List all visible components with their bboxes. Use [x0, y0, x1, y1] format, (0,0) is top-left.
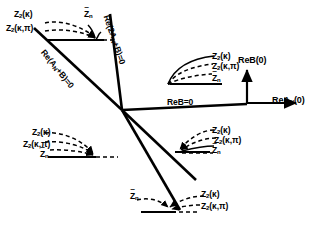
label-z2-kappa-lower-left: Z2(κ): [32, 128, 50, 137]
label-ztilde-n-bottom: ~Zn: [130, 192, 139, 201]
label-z2-kappa-pi-lower-left: Z2(κ,π): [23, 140, 50, 149]
label-z2-kappa-pi-bottom: Z2(κ,π): [201, 202, 228, 211]
label-ztilde-n-top-left: ~Zn: [84, 10, 93, 19]
label-z2-kappa-upper-right: Z2(κ): [212, 52, 230, 61]
label-ztilde-n-upper-right: ~Zn: [212, 74, 221, 83]
diagram-canvas: [0, 0, 326, 231]
label-z2-kappa-top-left: Z2(κ): [14, 10, 32, 19]
label-z2-kappa-mid-right: Z2(κ): [212, 126, 230, 135]
label-axis-rean0: ReAN(0): [272, 96, 305, 105]
flow-bottom: [137, 196, 204, 212]
flow-lower-left: [45, 133, 118, 157]
flow-top-left: [45, 22, 112, 40]
phase-diagram-figure: Z2(κ) Z2(κ,π) ~Zn Z2(κ) Z2(κ,π) ~Zn Z2(κ…: [0, 0, 326, 231]
label-axis-reb0: ReB(0): [238, 56, 266, 65]
flow-mid-right: [175, 130, 216, 153]
label-ztilde-n-lower-left: ~Zn: [40, 150, 49, 159]
label-reb-zero: ReB=0: [167, 98, 193, 107]
label-z2-kappa-bottom: Z2(κ): [201, 190, 219, 199]
label-z2-kappa-pi-top-left: Z2(κ,π): [6, 24, 33, 33]
label-ztilde-n-mid-right: ~Zn: [212, 146, 221, 155]
label-z2-kappa-pi-mid-right: Z2(κ,π): [214, 136, 241, 145]
